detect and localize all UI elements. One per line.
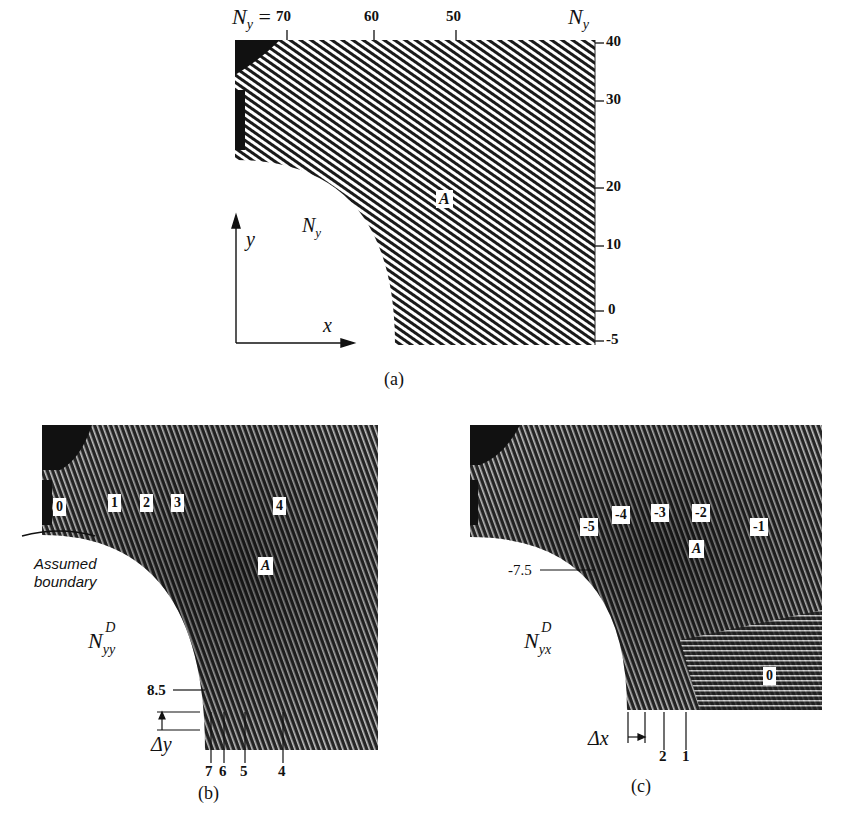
top-axis-label: Ny = [232,4,271,33]
fringe-order-0: 0 [53,498,66,516]
caption-c: (c) [631,776,651,797]
right-tick-30: 30 [606,91,621,108]
field-label: Ny [302,214,321,241]
caption-a: (a) [384,369,404,390]
bottom-tick-5: 5 [240,763,248,780]
field-label: NyxD [524,628,551,658]
fringe-order-minus4: -4 [612,506,630,524]
bottom-tick-2: 2 [659,748,667,765]
bottom-tick-1: 1 [682,748,690,765]
boundary-value-label: 8.5 [147,682,166,699]
point-a-marker: A [689,540,704,558]
boundary-value-label: -7.5 [508,562,532,579]
y-axis-label: y [246,228,255,251]
point-a-marker: A [436,190,453,208]
caption-b: (b) [198,783,219,804]
x-axis-label: x [323,314,332,337]
panel-a-field [235,40,595,345]
bottom-tick-7: 7 [205,763,213,780]
fringe-order-1: 1 [108,494,121,512]
fringe-order-4: 4 [273,497,286,515]
fringe-pattern-graphics [0,0,849,823]
top-tick-70: 70 [276,8,291,25]
fringe-order-minus2: -2 [692,504,710,522]
top-tick-60: 60 [364,8,379,25]
right-tick-10: 10 [606,236,621,253]
right-tick-20: 20 [606,178,621,195]
right-tick-40: 40 [606,33,621,50]
bottom-tick-4: 4 [278,763,286,780]
fringe-order-0: 0 [763,667,776,685]
fringe-order-minus1: -1 [750,518,768,536]
point-a-marker: A [258,557,273,575]
right-axis-label: Ny [568,4,589,33]
fringe-order-3: 3 [171,494,184,512]
fringe-order-minus5: -5 [580,518,598,536]
delta-x-label: Δx [588,727,609,750]
fringe-order-minus3: -3 [651,504,669,522]
top-tick-50: 50 [446,8,461,25]
right-tick-0: 0 [608,301,616,318]
bottom-tick-6: 6 [219,763,227,780]
fringe-order-2: 2 [140,494,153,512]
assumed-boundary-annotation: Assumed boundary [34,555,97,591]
field-label: NyyD [88,628,115,658]
right-tick-minus5: -5 [606,331,619,348]
delta-y-label: Δy [151,733,172,756]
